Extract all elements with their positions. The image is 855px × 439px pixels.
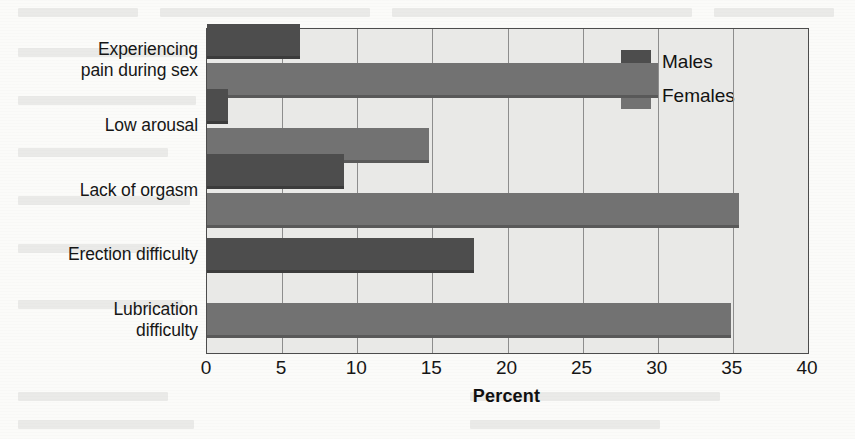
x-tick-label-35: 35 xyxy=(721,356,742,380)
category-label-3: Erection difficulty xyxy=(0,244,198,265)
x-tick-label-25: 25 xyxy=(571,356,592,380)
bar-females-0 xyxy=(207,63,658,98)
bar-males-1 xyxy=(207,89,228,124)
x-tick-label-40: 40 xyxy=(796,356,817,380)
bar-females-2 xyxy=(207,193,739,228)
category-label-1: Low arousal xyxy=(0,115,198,136)
category-label-line: difficulty xyxy=(0,320,198,341)
category-label-0: Experiencingpain during sex xyxy=(0,39,198,81)
category-label-line: Lack of orgasm xyxy=(0,180,198,201)
x-tick-label-10: 10 xyxy=(346,356,367,380)
x-tick-label-5: 5 xyxy=(276,356,287,380)
gridline xyxy=(733,29,734,353)
category-label-line: pain during sex xyxy=(0,60,198,81)
x-tick-label-20: 20 xyxy=(496,356,517,380)
bar-females-4 xyxy=(207,303,731,338)
x-tick-label-0: 0 xyxy=(201,356,212,380)
category-label-line: Low arousal xyxy=(0,115,198,136)
category-label-line: Lubrication xyxy=(0,299,198,320)
category-label-4: Lubricationdifficulty xyxy=(0,299,198,341)
category-label-line: Erection difficulty xyxy=(0,244,198,265)
category-axis-labels: Experiencingpain during sexLow arousalLa… xyxy=(0,28,198,352)
x-tick-label-30: 30 xyxy=(646,356,667,380)
bar-males-2 xyxy=(207,154,344,189)
legend-label-females: Females xyxy=(662,85,735,107)
bar-chart-figure: Experiencingpain during sexLow arousalLa… xyxy=(0,0,855,439)
x-axis-title: Percent xyxy=(206,386,807,407)
legend-label-males: Males xyxy=(662,51,713,73)
x-tick-label-15: 15 xyxy=(421,356,442,380)
bar-males-0 xyxy=(207,24,300,59)
plot-area: Males Females xyxy=(206,28,809,354)
category-label-line: Experiencing xyxy=(0,39,198,60)
bar-males-3 xyxy=(207,238,474,273)
category-label-2: Lack of orgasm xyxy=(0,180,198,201)
x-axis-tick-labels: 0510152025303540 xyxy=(206,356,807,382)
